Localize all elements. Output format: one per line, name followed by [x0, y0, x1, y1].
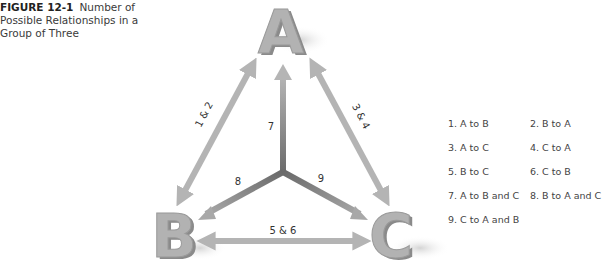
legend-item: 4. C to A — [530, 142, 603, 153]
legend-row: 3. A to C 4. C to A — [448, 142, 603, 166]
node-b: B B — [151, 201, 200, 261]
label-1-2: 1 & 2 — [193, 100, 215, 129]
legend-item: 8. B to A and C — [530, 190, 603, 201]
node-a-label: A — [258, 0, 305, 67]
label-3-4: 3 & 4 — [350, 102, 372, 131]
node-c-label: C — [369, 201, 413, 261]
label-7: 7 — [268, 121, 274, 132]
node-a: A A — [258, 0, 308, 69]
arrow-7 — [274, 64, 292, 174]
legend-item: 7. A to B and C — [448, 190, 530, 201]
legend-row: 9. C to A and B — [448, 214, 603, 238]
node-c: C C — [369, 201, 416, 261]
node-b-label: B — [151, 201, 197, 261]
label-9: 9 — [318, 173, 324, 184]
legend-item: 3. A to C — [448, 142, 530, 153]
arrow-9 — [283, 172, 368, 220]
label-5-6: 5 & 6 — [270, 225, 297, 236]
legend-item: 1. A to B — [448, 118, 530, 129]
legend-item: 9. C to A and B — [448, 214, 530, 225]
legend-row: 7. A to B and C 8. B to A and C — [448, 190, 603, 214]
legend-item: 6. C to B — [530, 166, 603, 177]
arrow-a-c — [314, 66, 385, 198]
legend-item: 5. B to C — [448, 166, 530, 177]
legend-row: 1. A to B 2. B to A — [448, 118, 603, 142]
relationship-legend: 1. A to B 2. B to A 3. A to C 4. C to A … — [448, 118, 603, 238]
legend-item: 2. B to A — [530, 118, 603, 129]
legend-row: 5. B to C 6. C to B — [448, 166, 603, 190]
label-8: 8 — [235, 176, 241, 187]
arrow-a-b — [181, 66, 252, 198]
